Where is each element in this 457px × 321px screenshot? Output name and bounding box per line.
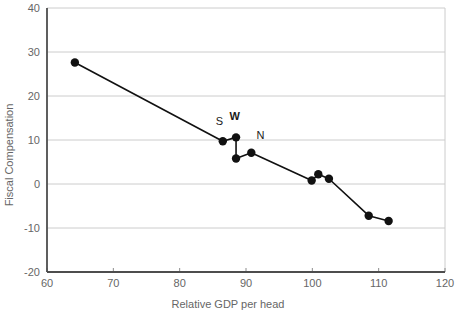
x-tick-label-70: 70 [107,277,119,289]
y-tick-label-0: 0 [34,178,40,190]
point-label-S: S [216,115,223,127]
data-point [232,154,240,162]
data-point [219,137,227,145]
y-tick-label-40: 40 [28,2,40,14]
data-point [314,170,322,178]
y-tick-label--20: -20 [24,266,40,278]
y-tick-label-30: 30 [28,46,40,58]
data-point [384,217,392,225]
y-tick-label--10: -10 [24,222,40,234]
x-tick-label-80: 80 [174,277,186,289]
x-tick-label-110: 110 [370,277,388,289]
point-label-N: N [257,129,265,141]
point-label-W: W [230,110,241,122]
x-tick-label-60: 60 [41,277,53,289]
x-tick-label-120: 120 [436,277,454,289]
x-axis-title: Relative GDP per head [172,298,285,310]
x-tick-label-90: 90 [240,277,252,289]
data-point [71,58,79,66]
data-point [232,133,240,141]
x-tick-label-100: 100 [303,277,321,289]
y-axis-title: Fiscal Compensation [3,104,15,207]
data-point [365,211,373,219]
y-tick-label-10: 10 [28,134,40,146]
y-tick-label-20: 20 [28,90,40,102]
chart-container: -20-10010203040 60708090100110120 SWN Re… [0,0,457,321]
data-point [247,149,255,157]
data-point [307,176,315,184]
scatter-line-chart: -20-10010203040 60708090100110120 SWN Re… [0,0,457,321]
data-point [325,175,333,183]
